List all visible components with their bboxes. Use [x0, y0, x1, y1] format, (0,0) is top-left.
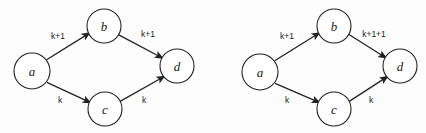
node-label-c: c: [331, 102, 337, 117]
left-graph: a b c d k+1 k+1 k k: [0, 0, 213, 133]
node-label-c: c: [102, 102, 108, 117]
edge-label-a-c: k: [285, 95, 290, 105]
edge-label-a-b: k+1: [51, 31, 65, 41]
node-label-b: b: [331, 19, 338, 34]
node-label-d: d: [174, 59, 181, 74]
edge-label-b-d: k+1: [141, 29, 155, 39]
figure-canvas: a b c d k+1 k+1 k k a b c d k+1 k+1+1 k …: [0, 0, 426, 133]
node-label-b: b: [101, 19, 108, 34]
edge-label-a-c: k: [58, 95, 63, 105]
edge-label-c-d: k: [369, 95, 374, 105]
edge-a-c: [47, 82, 91, 102]
edge-label-b-d: k+1+1: [362, 29, 386, 39]
edge-label-a-b: k+1: [280, 31, 294, 41]
right-graph: a b c d k+1 k+1+1 k k: [213, 0, 426, 133]
edge-a-c: [275, 83, 320, 102]
edge-label-c-d: k: [142, 95, 147, 105]
node-label-a: a: [29, 64, 36, 79]
node-label-a: a: [257, 65, 264, 80]
node-label-d: d: [397, 59, 404, 74]
